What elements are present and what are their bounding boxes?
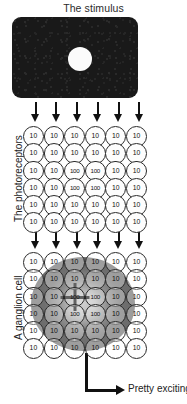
ganglion-cell: 10: [126, 338, 147, 359]
figure-title: The stimulus: [0, 2, 187, 14]
cell-row: 101010101010: [23, 269, 147, 286]
photoreceptor-rows: 1010101010101010101010101010100100101010…: [23, 126, 147, 230]
cell-row: 101010101010: [23, 212, 147, 229]
cell-row: 101010101010: [23, 321, 147, 338]
arrow-row-stimulus-to-photoreceptors: [31, 102, 144, 122]
down-arrow-icon: [73, 102, 82, 122]
cell-row: 10101001001010: [23, 287, 147, 304]
cell-row: 10101001001010: [23, 304, 147, 321]
arrow-row-photoreceptors-to-ganglion: [31, 229, 144, 249]
cell-row: 101010101010: [23, 195, 147, 212]
cell-row: 101010101010: [23, 252, 147, 269]
ganglion-cell: 10: [64, 338, 85, 359]
output-arrow-head-icon: [116, 385, 125, 395]
cell-row: 101010101010: [23, 143, 147, 160]
down-arrow-icon: [31, 102, 40, 122]
ganglion-cell: 10: [105, 338, 126, 359]
ganglion-cell: 10: [85, 338, 106, 359]
ganglion-rows: 1010101010101010101010101010100100101010…: [23, 252, 147, 356]
down-arrow-icon: [114, 102, 123, 122]
stimulus-light-spot: [68, 47, 92, 71]
output-arrow-horizontal: [85, 389, 118, 392]
ganglion-cell: 10: [44, 338, 65, 359]
cell-row: 10101001001010: [23, 161, 147, 178]
ganglion-cell: 10: [23, 338, 44, 359]
down-arrow-icon: [93, 102, 102, 122]
cell-row: 101010101010: [23, 126, 147, 143]
photoreceptor-cell: 10: [126, 212, 147, 233]
photoreceptor-cell: 10: [23, 212, 44, 233]
photoreceptor-cell: 10: [85, 212, 106, 233]
down-arrow-icon: [135, 102, 144, 122]
stimulus-panel: [12, 17, 138, 98]
output-caption: Pretty exciting!: [128, 383, 187, 394]
photoreceptor-grid: 1010101010101010101010101010100100101010…: [23, 126, 147, 230]
ganglion-grid: 1010101010101010101010101010100100101010…: [23, 252, 147, 356]
output-arrow-vertical: [85, 353, 88, 392]
cell-row: 10101001001010: [23, 178, 147, 195]
down-arrow-icon: [52, 102, 61, 122]
